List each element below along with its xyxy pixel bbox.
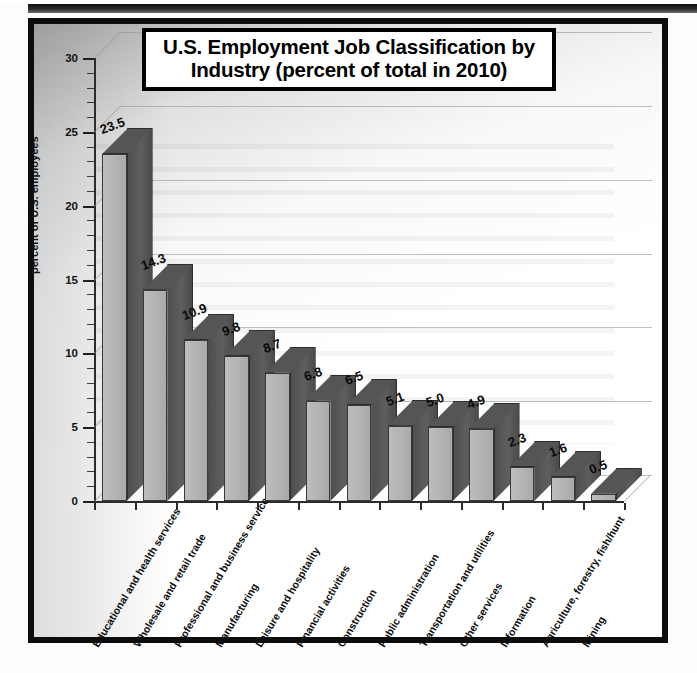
scanned-chart-page: U.S. Employment Job Classification by In… bbox=[0, 0, 697, 673]
y-tick-21 bbox=[87, 191, 94, 192]
chart-title: U.S. Employment Job Classification by In… bbox=[142, 28, 556, 91]
x-category-label-3: Manufacturing bbox=[212, 581, 260, 649]
x-tick-12 bbox=[583, 503, 585, 510]
y-tick-8 bbox=[87, 383, 94, 384]
x-category-label-9: Other services bbox=[457, 580, 505, 649]
bar-front-face bbox=[551, 477, 575, 501]
plot-area: percent of U.S. employees 05101520253023… bbox=[34, 24, 662, 637]
x-tick-10 bbox=[502, 503, 504, 510]
bar-2 bbox=[184, 314, 208, 501]
chart-title-line-1: U.S. Employment Job Classification by bbox=[152, 35, 546, 58]
bar-front-face bbox=[184, 340, 208, 501]
y-tick-group bbox=[83, 24, 94, 637]
y-tick-25 bbox=[83, 132, 94, 134]
bar-8 bbox=[428, 401, 452, 501]
x-tick-8 bbox=[420, 503, 422, 510]
x-category-label-8: Transportation and utilities bbox=[416, 527, 496, 649]
chart-title-line-2: Industry (percent of total in 2010) bbox=[152, 58, 546, 81]
chart-frame: U.S. Employment Job Classification by In… bbox=[28, 18, 668, 643]
y-tick-12 bbox=[87, 324, 94, 325]
y-tick-19 bbox=[87, 220, 94, 221]
x-tick-end bbox=[624, 503, 626, 510]
x-tick-6 bbox=[339, 503, 341, 510]
y-tick-16 bbox=[87, 265, 94, 266]
y-tick-18 bbox=[87, 235, 94, 236]
bar-front-face bbox=[388, 426, 412, 501]
gridline-riser-30 bbox=[94, 32, 121, 59]
y-tick-5 bbox=[83, 427, 94, 429]
bar-9 bbox=[469, 403, 493, 501]
x-tick-5 bbox=[298, 503, 300, 510]
y-tick-14 bbox=[87, 294, 94, 295]
x-tick-3 bbox=[216, 503, 218, 510]
bar-front-face bbox=[143, 290, 167, 501]
bar-4 bbox=[265, 347, 289, 501]
y-tick-label-10: 10 bbox=[42, 347, 78, 359]
y-tick-6 bbox=[87, 412, 94, 413]
y-tick-23 bbox=[87, 161, 94, 162]
y-tick-30 bbox=[83, 58, 94, 60]
bar-front-face bbox=[469, 429, 493, 501]
x-tick-2 bbox=[176, 503, 178, 510]
y-tick-label-0: 0 bbox=[42, 495, 78, 507]
y-tick-label-5: 5 bbox=[42, 421, 78, 433]
gridline-25 bbox=[120, 106, 652, 107]
x-tick-9 bbox=[461, 503, 463, 510]
x-tick-0 bbox=[94, 503, 96, 510]
x-category-label-12: Mining bbox=[579, 614, 607, 649]
y-tick-1 bbox=[87, 486, 94, 487]
gridline-20 bbox=[120, 180, 652, 181]
gridline-15 bbox=[120, 254, 652, 255]
x-axis-line bbox=[94, 501, 624, 503]
y-tick-10 bbox=[83, 353, 94, 355]
x-category-label-1: Wholesale and retail trade bbox=[131, 531, 208, 649]
y-axis-title: percent of U.S. employees bbox=[28, 136, 40, 274]
x-tick-4 bbox=[257, 503, 259, 510]
y-tick-0 bbox=[83, 501, 94, 503]
y-tick-27 bbox=[87, 102, 94, 103]
bar-front-face bbox=[591, 494, 615, 501]
bar-front-face bbox=[102, 154, 126, 501]
y-tick-29 bbox=[87, 73, 94, 74]
bar-front-face bbox=[510, 467, 534, 501]
x-category-label-10: Information bbox=[498, 593, 538, 649]
y-tick-label-15: 15 bbox=[42, 274, 78, 286]
y-tick-9 bbox=[87, 368, 94, 369]
x-tick-11 bbox=[542, 503, 544, 510]
bar-0 bbox=[102, 128, 126, 501]
bar-front-face bbox=[224, 356, 248, 501]
bar-front-face bbox=[347, 405, 371, 501]
y-tick-28 bbox=[87, 88, 94, 89]
scan-edge-strip bbox=[28, 4, 697, 13]
y-tick-13 bbox=[87, 309, 94, 310]
bar-front-face bbox=[428, 427, 452, 501]
y-tick-label-20: 20 bbox=[42, 200, 78, 212]
bar-7 bbox=[388, 400, 412, 501]
y-tick-label-25: 25 bbox=[42, 126, 78, 138]
y-tick-11 bbox=[87, 339, 94, 340]
bar-front-face bbox=[306, 401, 330, 501]
x-tick-1 bbox=[135, 503, 137, 510]
x-category-label-11: Agriculture, forestry, fish/hunt bbox=[539, 514, 627, 649]
y-tick-20 bbox=[83, 206, 94, 208]
bar-front-face bbox=[265, 373, 289, 501]
y-tick-3 bbox=[87, 457, 94, 458]
y-tick-17 bbox=[87, 250, 94, 251]
x-category-label-6: Construction bbox=[335, 587, 379, 649]
y-tick-4 bbox=[87, 442, 94, 443]
bar-3 bbox=[224, 330, 248, 501]
y-tick-15 bbox=[83, 280, 94, 282]
x-tick-7 bbox=[379, 503, 381, 510]
y-tick-26 bbox=[87, 117, 94, 118]
y-tick-24 bbox=[87, 147, 94, 148]
y-tick-label-30: 30 bbox=[42, 52, 78, 64]
bar-10 bbox=[510, 441, 534, 501]
y-tick-22 bbox=[87, 176, 94, 177]
y-tick-7 bbox=[87, 398, 94, 399]
bar-6 bbox=[347, 379, 371, 501]
bar-5 bbox=[306, 375, 330, 501]
bar-1 bbox=[143, 264, 167, 501]
y-tick-2 bbox=[87, 471, 94, 472]
